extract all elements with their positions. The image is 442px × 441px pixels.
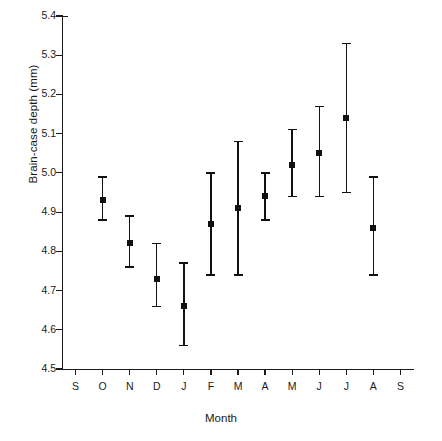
error-bar-cap-lower <box>288 196 297 197</box>
x-tick-label: O <box>93 380 113 392</box>
y-axis-label: Brain-case depth (mm) <box>27 39 39 209</box>
chart-container: Brain-case depth (mm) 5.45.35.25.15.04.9… <box>0 0 442 441</box>
y-tick <box>56 133 63 134</box>
x-tick-label: N <box>120 380 140 392</box>
y-tick-label: 4.8 <box>24 244 56 256</box>
x-tick-label: M <box>228 380 248 392</box>
y-tick-label: 4.9 <box>24 205 56 217</box>
data-point-marker <box>316 150 322 156</box>
error-bar-cap-lower <box>98 219 107 220</box>
y-tick-label: 5.2 <box>24 87 56 99</box>
x-tick <box>102 369 103 375</box>
error-bar-cap-lower <box>125 266 134 267</box>
error-bar-cap-upper <box>234 141 243 142</box>
error-bar-cap-upper <box>288 129 297 130</box>
error-bar-cap-lower <box>179 345 188 346</box>
x-tick <box>75 369 76 375</box>
y-tick <box>56 212 63 213</box>
x-tick <box>400 369 401 375</box>
y-tick <box>56 368 63 369</box>
x-tick-label: S <box>390 380 410 392</box>
x-tick <box>292 369 293 375</box>
x-tick <box>264 369 265 375</box>
y-tick-label: 5.1 <box>24 127 56 139</box>
x-tick-label: J <box>309 380 329 392</box>
y-tick <box>56 15 63 16</box>
data-point-marker <box>127 240 133 246</box>
error-bar-cap-upper <box>125 215 134 216</box>
error-bar-cap-upper <box>179 262 188 263</box>
x-tick-label: A <box>363 380 383 392</box>
x-tick-label: D <box>147 380 167 392</box>
x-tick <box>210 369 211 375</box>
data-point-marker <box>100 197 106 203</box>
error-bar-cap-upper <box>342 43 351 44</box>
y-tick-label: 5.4 <box>24 9 56 21</box>
data-point-marker <box>235 205 241 211</box>
x-tick <box>346 369 347 375</box>
error-bar-cap-lower <box>315 196 324 197</box>
x-tick <box>319 369 320 375</box>
error-bar-cap-upper <box>98 176 107 177</box>
y-tick <box>56 329 63 330</box>
x-tick <box>183 369 184 375</box>
error-bar-cap-upper <box>206 172 215 173</box>
x-tick <box>156 369 157 375</box>
y-tick <box>56 94 63 95</box>
error-bar-cap-lower <box>234 274 243 275</box>
x-tick-label: A <box>255 380 275 392</box>
error-bar-cap-upper <box>261 172 270 173</box>
data-point-marker <box>289 162 295 168</box>
y-tick <box>56 290 63 291</box>
x-tick <box>129 369 130 375</box>
error-bar-cap-upper <box>315 106 324 107</box>
y-tick-label: 4.6 <box>24 323 56 335</box>
x-axis-label: Month <box>0 412 442 424</box>
data-point-marker <box>208 221 214 227</box>
error-bar-cap-upper <box>152 243 161 244</box>
error-bar-cap-upper <box>369 176 378 177</box>
x-tick-label: J <box>174 380 194 392</box>
x-tick-label: M <box>282 380 302 392</box>
error-bar-cap-lower <box>342 192 351 193</box>
y-tick <box>56 251 63 252</box>
error-bar-cap-lower <box>369 274 378 275</box>
error-bar-cap-lower <box>261 219 270 220</box>
y-tick <box>56 172 63 173</box>
data-point-marker <box>370 225 376 231</box>
y-tick-label: 5.0 <box>24 166 56 178</box>
y-tick-label: 4.5 <box>24 362 56 374</box>
error-bar-cap-lower <box>152 306 161 307</box>
x-tick <box>237 369 238 375</box>
y-tick-label: 5.3 <box>24 48 56 60</box>
y-tick <box>56 55 63 56</box>
y-axis-line <box>62 16 63 370</box>
data-point-marker <box>343 115 349 121</box>
x-tick-label: S <box>66 380 86 392</box>
y-tick-label: 4.7 <box>24 284 56 296</box>
data-point-marker <box>154 276 160 282</box>
data-point-marker <box>262 193 268 199</box>
error-bar-cap-lower <box>206 274 215 275</box>
x-tick-label: F <box>201 380 221 392</box>
x-tick <box>373 369 374 375</box>
data-point-marker <box>181 303 187 309</box>
x-tick-label: J <box>336 380 356 392</box>
